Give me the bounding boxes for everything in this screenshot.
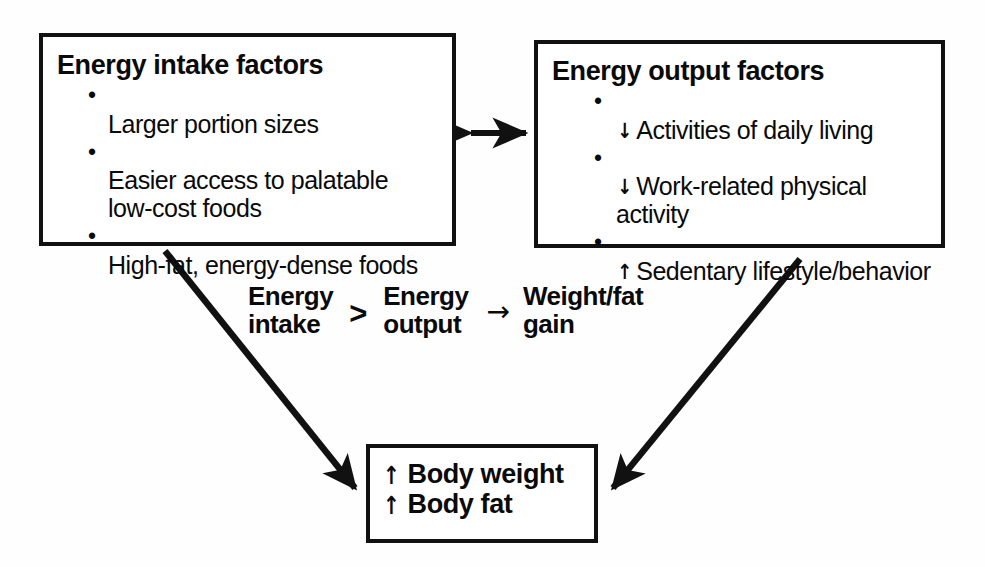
result-line-text: Body fat xyxy=(408,489,513,519)
energy-output-factors-box: Energy output factors ↓Activities of dai… xyxy=(534,40,945,248)
list-item-text: Sedentary lifestyle/behavior xyxy=(636,257,931,285)
arrow-down-icon: ↓ xyxy=(617,177,632,198)
list-item: Larger portion sizes xyxy=(88,83,452,139)
arrow-down-icon: ↓ xyxy=(617,121,632,142)
energy-output-factors-title: Energy output factors xyxy=(552,57,941,85)
greater-than-icon: > xyxy=(333,282,383,329)
arrow-up-icon: ↑ xyxy=(383,493,399,518)
equation-outcome: Weight/fat gain xyxy=(523,282,643,338)
list-item: High-fat, energy-dense foods xyxy=(88,224,452,280)
equation-right-term: Energy output xyxy=(383,282,468,338)
list-item-text: Work-related physical activity xyxy=(616,172,867,228)
list-item: ↓Activities of daily living xyxy=(594,89,941,145)
arrow-up-icon: ↑ xyxy=(383,463,399,488)
result-line-text: Body weight xyxy=(408,459,564,489)
arrow-up-icon: ↑ xyxy=(617,262,632,283)
list-item: Easier access to palatable low-cost food… xyxy=(88,140,452,223)
list-item: ↑Sedentary lifestyle/behavior xyxy=(594,230,941,286)
list-item-text: Activities of daily living xyxy=(636,116,873,144)
energy-intake-factors-box: Energy intake factors Larger portion siz… xyxy=(39,33,456,246)
energy-balance-equation: Energy intake > Energy output → Weight/f… xyxy=(248,282,643,338)
list-item-text: Easier access to palatable low-cost food… xyxy=(108,166,388,222)
energy-intake-factors-title: Energy intake factors xyxy=(57,51,452,79)
diagram-canvas: Energy intake factors Larger portion siz… xyxy=(0,0,985,567)
energy-intake-factors-list: Larger portion sizes Easier access to pa… xyxy=(43,83,452,279)
list-item: ↓Work-related physical activity xyxy=(594,146,941,229)
list-item-text: High-fat, energy-dense foods xyxy=(108,251,418,279)
result-line: ↑Body weight xyxy=(381,459,594,489)
arrow-right-icon: → xyxy=(468,282,522,326)
body-weight-fat-result-box: ↑Body weight ↑Body fat xyxy=(366,444,598,543)
list-item-text: Larger portion sizes xyxy=(108,110,319,138)
result-line: ↑Body fat xyxy=(381,489,594,519)
equation-left-term: Energy intake xyxy=(248,282,333,338)
energy-output-factors-list: ↓Activities of daily living ↓Work-relate… xyxy=(538,89,941,285)
